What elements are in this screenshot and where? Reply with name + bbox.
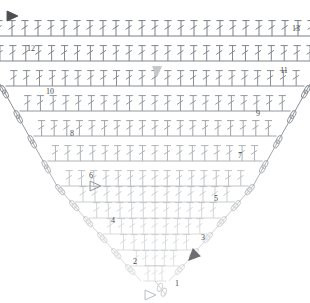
row-number-label: 3 (201, 233, 205, 242)
stitch-row (0, 20, 310, 36)
double-crochet-stitch (163, 202, 170, 218)
double-crochet-stitch (172, 234, 179, 250)
double-crochet-stitch (281, 20, 288, 36)
double-crochet-stitch (151, 20, 158, 36)
start-arrow-top-left-icon (7, 11, 18, 21)
double-crochet-stitch (139, 70, 146, 86)
row-number-label: 6 (89, 171, 93, 180)
row-number-label: 4 (111, 216, 115, 225)
row-number-label: 10 (46, 87, 54, 96)
double-crochet-stitch (164, 95, 171, 111)
double-crochet-stitch (203, 20, 210, 36)
double-crochet-stitch (120, 234, 127, 250)
double-crochet-stitch (86, 20, 93, 36)
double-crochet-stitch (112, 20, 119, 36)
double-crochet-stitch (279, 95, 286, 111)
double-crochet-stitch (268, 20, 275, 36)
double-crochet-stitch (228, 95, 235, 111)
double-crochet-stitch (64, 145, 71, 161)
double-crochet-stitch (113, 95, 120, 111)
double-crochet-stitch (50, 95, 57, 111)
double-crochet-stitch (100, 45, 107, 61)
double-crochet-stitch (202, 120, 209, 136)
double-crochet-stitch (128, 202, 135, 218)
double-crochet-stitch (229, 20, 236, 36)
stitch-row (117, 234, 194, 250)
double-crochet-stitch (281, 45, 288, 61)
double-crochet-stitch (190, 45, 197, 61)
edge-increase-line (295, 85, 310, 111)
double-crochet-stitch (177, 95, 184, 111)
row-number-label: 1 (175, 279, 179, 288)
double-crochet-stitch (114, 145, 121, 161)
double-crochet-stitch (36, 70, 43, 86)
double-crochet-stitch (139, 186, 146, 202)
double-crochet-stitch (38, 120, 45, 136)
row-number-label: 2 (133, 257, 137, 266)
double-crochet-stitch (48, 45, 55, 61)
double-crochet-stitch (74, 70, 81, 86)
row-number-label: 13 (292, 24, 300, 33)
double-crochet-stitch (293, 70, 300, 86)
double-crochet-stitch (75, 95, 82, 111)
double-crochet-stitch (177, 70, 184, 86)
double-crochet-stitch (151, 170, 158, 186)
double-crochet-stitch (158, 265, 165, 281)
double-crochet-stitch (139, 170, 146, 186)
double-crochet-stitch (161, 250, 168, 266)
double-crochet-stitch (201, 145, 208, 161)
double-crochet-stitch (203, 70, 210, 86)
turning-chain-line (309, 61, 310, 86)
turning-chain-line (295, 86, 309, 111)
double-crochet-stitch (266, 95, 273, 111)
double-crochet-stitch (0, 45, 4, 61)
row-number-label: 11 (280, 66, 288, 75)
turning-chain-line (127, 266, 141, 281)
turning-chain-line (281, 111, 295, 136)
double-crochet-stitch (216, 20, 223, 36)
direction-arrow-center-icon (153, 67, 162, 77)
double-crochet-stitch (254, 70, 261, 86)
row-number-label: 8 (70, 129, 74, 138)
double-crochet-stitch (267, 70, 274, 86)
double-crochet-stitch (113, 45, 120, 61)
double-crochet-stitch (0, 20, 3, 36)
double-crochet-stitch (294, 45, 301, 61)
double-crochet-stitch (225, 170, 232, 186)
double-crochet-stitch (202, 95, 209, 111)
double-crochet-stitch (101, 120, 108, 136)
double-crochet-stitch (214, 120, 221, 136)
turning-chain-line (29, 136, 43, 161)
double-crochet-stitch (240, 95, 247, 111)
double-crochet-stitch (151, 186, 158, 202)
double-crochet-stitch (138, 20, 145, 36)
double-crochet-stitch (139, 145, 146, 161)
double-crochet-stitch (164, 70, 171, 86)
double-crochet-stitch (163, 218, 170, 234)
double-crochet-stitch (189, 120, 196, 136)
crochet-chart-svg: 13121110987654321 (0, 0, 310, 303)
double-crochet-stitch (188, 170, 195, 186)
double-crochet-stitch (177, 20, 184, 36)
double-crochet-stitch (51, 120, 58, 136)
double-crochet-stitch (190, 95, 197, 111)
double-crochet-stitch (255, 20, 262, 36)
foundation-chain-tail (155, 281, 167, 297)
double-crochet-stitch (177, 120, 184, 136)
double-crochet-stitch (74, 45, 81, 61)
double-crochet-stitch (307, 20, 310, 36)
double-crochet-stitch (89, 145, 96, 161)
double-crochet-stitch (138, 45, 145, 61)
double-crochet-stitch (127, 145, 134, 161)
double-crochet-stitch (73, 20, 80, 36)
double-crochet-stitch (151, 120, 158, 136)
double-crochet-stitch (93, 202, 100, 218)
double-crochet-stitch (139, 120, 146, 136)
double-crochet-stitch (77, 145, 84, 161)
double-crochet-stitch (214, 145, 221, 161)
double-crochet-stitch (103, 186, 110, 202)
double-crochet-stitch (174, 218, 181, 234)
double-crochet-stitch (268, 45, 275, 61)
double-crochet-stitch (306, 45, 310, 61)
stitch-row (19, 95, 290, 111)
